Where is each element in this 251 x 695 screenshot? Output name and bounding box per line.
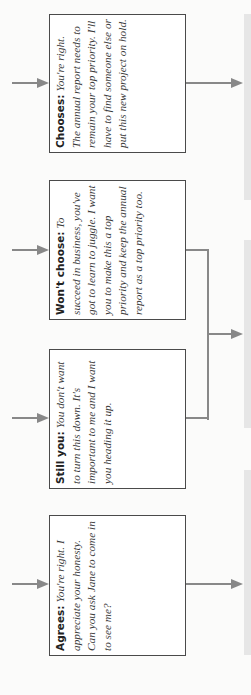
arrowhead-icon (37, 245, 49, 255)
arrowhead-icon (37, 579, 49, 589)
arrow-out-chooses (186, 82, 232, 84)
arrow-in-agrees (12, 583, 38, 585)
arrow-in-wont-choose (12, 249, 38, 251)
flow-box-agrees: Agrees:You're right. I appreciate your h… (49, 515, 186, 656)
arrow-in-chooses (12, 82, 38, 84)
box-label: Agrees: (54, 605, 66, 651)
flow-box-wont-choose: Won't choose:To succeed in business, you… (49, 180, 186, 320)
arrow-out-merged (207, 333, 232, 335)
arrow-out-agrees (186, 583, 232, 585)
next-step-panel-3 (244, 470, 251, 655)
arrowhead-icon (231, 78, 243, 88)
arrowhead-icon (37, 78, 49, 88)
connector-still-you (186, 417, 209, 419)
arrowhead-icon (231, 579, 243, 589)
box-text: To succeed in business, you've got to le… (54, 185, 144, 315)
box-label: Still you: (54, 431, 66, 484)
flow-box-still-you: Still you:You don't want to turn this do… (49, 349, 186, 489)
next-step-panel-2 (244, 240, 251, 428)
box-label: Chooses: (54, 95, 66, 148)
next-step-panel-1 (244, 14, 251, 200)
connector-wont-choose (186, 249, 209, 251)
box-label: Won't choose: (54, 232, 66, 315)
arrow-in-still-you (12, 417, 38, 419)
arrowhead-icon (37, 413, 49, 423)
arrowhead-icon (231, 329, 243, 339)
flow-box-chooses: Chooses:You're right. The annual report … (49, 14, 186, 153)
